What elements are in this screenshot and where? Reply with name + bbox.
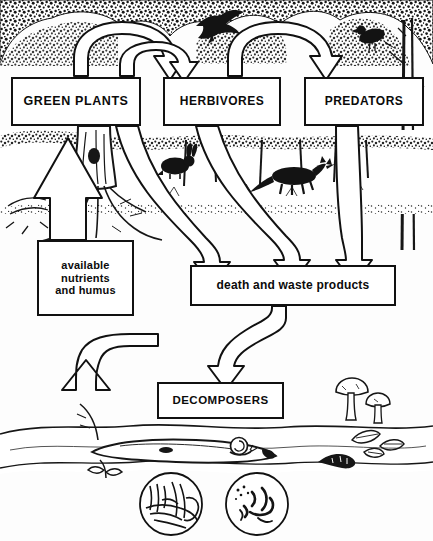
box-decomposers [158,383,283,418]
box-herbivores [164,78,280,125]
bacteria-inset [226,473,288,535]
diagram-artwork [0,0,433,541]
box-green-plants [12,78,140,125]
fungal-hyphae-inset [140,473,202,535]
ecosystem-nutrient-cycle-diagram: GREEN PLANTS HERBIVORES PREDATORS availa… [0,0,433,541]
box-nutrients [38,241,133,315]
box-death-waste [191,266,395,305]
box-predators [305,78,423,125]
